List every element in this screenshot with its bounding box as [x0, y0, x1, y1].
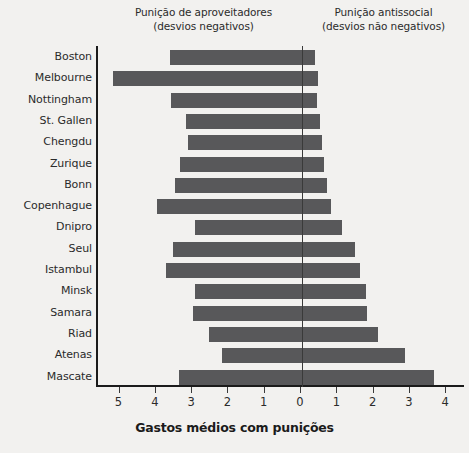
bar-row: [98, 111, 464, 132]
x-axis-tick: [119, 387, 120, 393]
x-axis-tick: [373, 387, 374, 393]
x-axis-tick-label: 3: [179, 395, 203, 409]
bar: [193, 306, 367, 321]
bar-row: [98, 47, 464, 68]
bar: [195, 220, 342, 235]
category-label: Copenhague: [4, 199, 92, 213]
bar: [179, 370, 435, 385]
x-axis-tick: [264, 387, 265, 393]
bar-row: [98, 175, 464, 196]
category-label: Melbourne: [4, 71, 92, 85]
x-axis-tick: [155, 387, 156, 393]
bar: [186, 114, 320, 129]
category-label: Minsk: [4, 284, 92, 298]
bar: [195, 284, 366, 299]
bar-row: [98, 260, 464, 281]
bar: [170, 50, 315, 65]
header-annotation-left: Punição de aproveitadores (desvios negat…: [106, 6, 301, 33]
x-axis: 5432101234: [96, 387, 464, 415]
x-axis-tick-label: 4: [433, 395, 457, 409]
bar: [113, 71, 318, 86]
bar: [171, 93, 316, 108]
bar-row: [98, 367, 464, 388]
header-left-line2: (desvios negativos): [106, 20, 301, 34]
plot-area: [96, 46, 464, 387]
category-label: Seul: [4, 242, 92, 256]
category-label: St. Gallen: [4, 114, 92, 128]
bar-row: [98, 90, 464, 111]
category-axis-labels: BostonMelbourneNottinghamSt. GallenCheng…: [0, 46, 92, 387]
x-axis-tick: [336, 387, 337, 393]
category-label: Dnipro: [4, 220, 92, 234]
x-axis-tick: [227, 387, 228, 393]
category-label: Bonn: [4, 178, 92, 192]
category-label: Zurique: [4, 157, 92, 171]
x-axis-tick-label: 4: [143, 395, 167, 409]
header-annotation-right: Punição antissocial (desvios não negativ…: [302, 6, 465, 33]
x-axis-tick: [409, 387, 410, 393]
bar-row: [98, 154, 464, 175]
bar-row: [98, 303, 464, 324]
category-label: Boston: [4, 50, 92, 64]
x-axis-tick-label: 0: [288, 395, 312, 409]
x-axis-tick-label: 5: [107, 395, 131, 409]
bar-row: [98, 68, 464, 89]
category-label: Chengdu: [4, 135, 92, 149]
bar: [173, 242, 355, 257]
x-axis-title: Gastos médios com punições: [0, 420, 469, 435]
bar-row: [98, 196, 464, 217]
bar: [157, 199, 331, 214]
x-axis-tick: [191, 387, 192, 393]
x-axis-tick: [300, 387, 301, 393]
x-axis-tick-label: 2: [215, 395, 239, 409]
category-label: Nottingham: [4, 93, 92, 107]
category-label: Samara: [4, 306, 92, 320]
bar: [175, 178, 327, 193]
x-axis-tick-label: 2: [361, 395, 385, 409]
x-axis-tick-label: 3: [397, 395, 421, 409]
category-label: Mascate: [4, 370, 92, 384]
category-label: Atenas: [4, 348, 92, 362]
bar: [166, 263, 360, 278]
x-axis-tick-label: 1: [324, 395, 348, 409]
header-right-line1: Punição antissocial: [335, 6, 433, 18]
x-axis-tick: [445, 387, 446, 393]
chart-page: Punição de aproveitadores (desvios negat…: [0, 0, 469, 453]
bar-row: [98, 345, 464, 366]
header-right-line2: (desvios não negativos): [302, 20, 465, 34]
bar-row: [98, 281, 464, 302]
bar-row: [98, 132, 464, 153]
x-axis-tick-label: 1: [252, 395, 276, 409]
header-left-line1: Punição de aproveitadores: [135, 6, 272, 18]
bar-row: [98, 217, 464, 238]
bar-row: [98, 239, 464, 260]
category-label: Riad: [4, 327, 92, 341]
bar-row: [98, 324, 464, 345]
bar: [209, 327, 378, 342]
bar: [222, 348, 405, 363]
category-label: Istambul: [4, 263, 92, 277]
zero-reference-line: [302, 46, 303, 387]
